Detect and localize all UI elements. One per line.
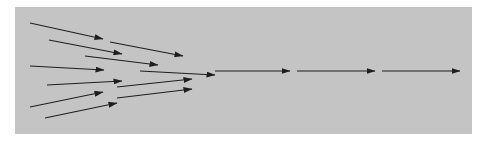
converging-arrow: [117, 89, 192, 98]
converging-arrow: [85, 56, 158, 65]
diagram-canvas: [0, 0, 486, 143]
converging-arrow: [45, 103, 117, 118]
converging-arrow: [30, 66, 104, 70]
converging-arrow: [47, 81, 122, 85]
converging-arrow: [30, 23, 103, 39]
converging-arrow: [117, 79, 192, 87]
converging-arrow: [30, 92, 103, 107]
converging-arrows: [30, 23, 215, 118]
converging-arrow: [140, 71, 215, 75]
arrows-layer: [0, 0, 486, 143]
